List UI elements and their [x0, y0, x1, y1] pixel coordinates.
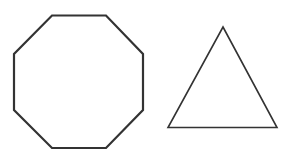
shapes-diagram — [0, 0, 295, 163]
